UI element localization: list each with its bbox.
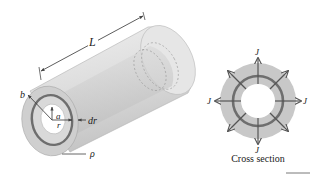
- length-tick-left: [39, 67, 41, 80]
- length-tick-right: [143, 12, 145, 20]
- j-label-left: J: [207, 96, 212, 106]
- diagram-canvas: L b a r dr ρ J J J J Cross section: [0, 0, 319, 175]
- j-label-right: J: [303, 96, 308, 106]
- hollow-cylinder: L b a r dr ρ: [16, 12, 206, 160]
- shell-thickness-label: dr: [88, 115, 97, 126]
- j-label-top: J: [255, 47, 260, 57]
- cross-section-inner-hole: [241, 84, 275, 118]
- cross-section: J J J J Cross section: [207, 47, 308, 164]
- length-label: L: [88, 35, 96, 49]
- cross-section-caption: Cross section: [231, 153, 285, 164]
- resistivity-label: ρ: [89, 148, 95, 159]
- radius-label: r: [57, 120, 61, 130]
- outer-radius-label: b: [20, 89, 25, 100]
